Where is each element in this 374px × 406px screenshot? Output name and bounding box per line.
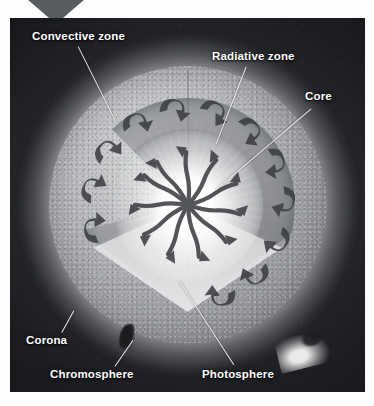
sun-disc xyxy=(49,66,327,344)
label-photosphere: Photosphere xyxy=(202,368,274,380)
sun-diagram-photo: Convective zoneRadiative zoneCoreCoronaC… xyxy=(10,18,365,392)
label-corona: Corona xyxy=(26,334,67,346)
label-radiative-zone: Radiative zone xyxy=(212,50,295,62)
core-layer xyxy=(113,130,263,280)
figure-stage: Convective zoneRadiative zoneCoreCoronaC… xyxy=(0,0,374,406)
label-chromosphere: Chromosphere xyxy=(50,368,134,380)
label-convective-zone: Convective zone xyxy=(32,30,125,42)
label-core: Core xyxy=(305,90,332,102)
